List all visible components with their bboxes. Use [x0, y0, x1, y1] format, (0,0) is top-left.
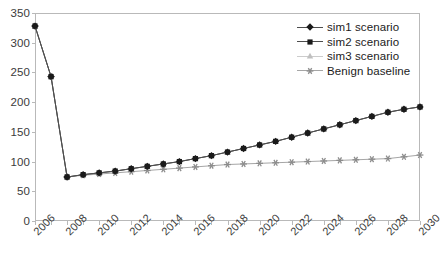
legend-symbol: [297, 35, 323, 49]
data-point-asterisk: [208, 163, 215, 169]
data-point-square: [145, 164, 150, 169]
data-point-square: [273, 139, 278, 144]
legend-item-sim1-scenario[interactable]: sim1 scenario: [297, 20, 427, 35]
data-point-asterisk: [352, 157, 359, 163]
data-point-asterisk: [240, 161, 247, 167]
data-point-square: [193, 156, 198, 161]
legend-marker-diamond-icon: [297, 20, 323, 34]
legend-label: sim3 scenario: [327, 50, 399, 62]
data-point-square: [81, 172, 86, 177]
data-point-asterisk: [307, 68, 314, 74]
data-point-square: [97, 170, 102, 175]
data-point-asterisk: [320, 158, 327, 164]
data-point-square: [32, 23, 37, 28]
data-point-asterisk: [385, 156, 392, 162]
data-point-asterisk: [288, 159, 295, 165]
legend-marker-asterisk-icon: [297, 64, 323, 78]
data-point-square: [64, 174, 69, 179]
data-point-triangle: [307, 53, 313, 59]
data-point-asterisk: [224, 162, 231, 168]
data-point-square: [48, 74, 53, 79]
data-point-square: [385, 110, 390, 115]
data-point-asterisk: [304, 159, 311, 165]
legend-symbol: [297, 20, 323, 34]
data-point-asterisk: [176, 165, 183, 171]
data-point-square: [161, 161, 166, 166]
data-point-square: [417, 104, 422, 109]
legend-item-sim3-scenario[interactable]: sim3 scenario: [297, 49, 427, 64]
legend-marker-triangle-icon: [297, 49, 323, 63]
legend-symbol: [297, 49, 323, 63]
data-point-square: [177, 159, 182, 164]
legend-symbol: [297, 64, 323, 78]
data-point-square: [307, 39, 312, 44]
data-point-square: [321, 126, 326, 131]
data-point-square: [401, 107, 406, 112]
legend-item-benign-baseline[interactable]: Benign baseline: [297, 64, 427, 79]
legend-label: sim2 scenario: [327, 36, 399, 48]
chart-legend: sim1 scenariosim2 scenariosim3 scenarioB…: [297, 20, 427, 78]
data-point-asterisk: [256, 160, 263, 166]
data-point-square: [337, 122, 342, 127]
data-point-square: [129, 166, 134, 171]
data-point-diamond: [306, 24, 313, 31]
data-point-asterisk: [368, 156, 375, 162]
legend-item-sim2-scenario[interactable]: sim2 scenario: [297, 35, 427, 50]
data-point-square: [289, 135, 294, 140]
data-point-asterisk: [336, 157, 343, 163]
data-point-square: [257, 142, 262, 147]
data-point-square: [369, 114, 374, 119]
data-point-square: [209, 153, 214, 158]
data-point-asterisk: [417, 152, 424, 158]
data-point-square: [305, 130, 310, 135]
data-point-asterisk: [401, 154, 408, 160]
legend-label: sim1 scenario: [327, 21, 399, 33]
legend-marker-square-icon: [297, 35, 323, 49]
data-point-square: [225, 149, 230, 154]
data-point-asterisk: [272, 160, 279, 166]
data-point-square: [113, 168, 118, 173]
data-point-square: [353, 118, 358, 123]
line-chart: 050100150200250300350 200620082010201220…: [0, 0, 440, 262]
legend-label: Benign baseline: [327, 65, 410, 77]
data-point-asterisk: [192, 164, 199, 170]
data-point-square: [241, 146, 246, 151]
